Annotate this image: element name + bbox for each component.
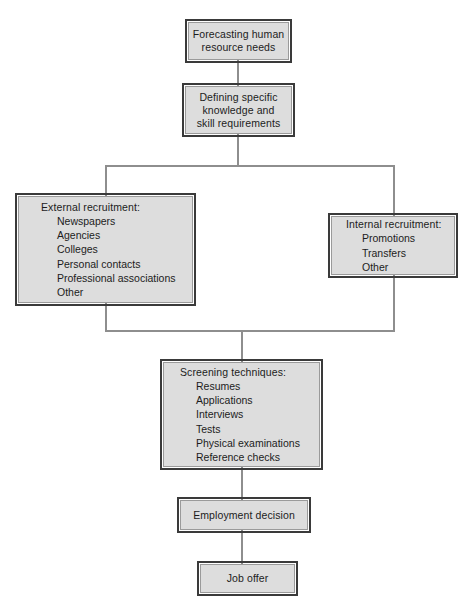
connector-split-to-external xyxy=(105,165,107,197)
connector-merge-to-screening xyxy=(241,330,243,363)
screening-techniques-list: Resumes Applications Interviews Tests Ph… xyxy=(180,379,300,464)
node-internal-recruitment[interactable]: Internal recruitment: Promotions Transfe… xyxy=(331,216,455,275)
node-label: Employment decision xyxy=(193,509,295,522)
list-item: Personal contacts xyxy=(57,257,175,271)
node-label: Screening techniques: xyxy=(180,365,286,379)
connector-split-bus xyxy=(105,165,395,167)
list-item: Tests xyxy=(196,422,300,436)
external-recruitment-list: Newspapers Agencies Colleges Personal co… xyxy=(41,214,175,299)
node-defining-requirements[interactable]: Defining specific knowledge and skill re… xyxy=(185,86,292,134)
node-label: Forecasting human resource needs xyxy=(193,28,285,54)
node-external-recruitment[interactable]: External recruitment: Newspapers Agencie… xyxy=(18,196,193,303)
list-item: Other xyxy=(362,260,415,274)
node-forecasting-human-resource-needs[interactable]: Forecasting human resource needs xyxy=(188,22,289,60)
node-label: External recruitment: xyxy=(41,200,140,214)
connector-merge-bus xyxy=(105,330,395,332)
list-item: Reference checks xyxy=(196,450,300,464)
connector-external-down xyxy=(105,303,107,332)
connector-employment-to-joboffer xyxy=(241,530,243,564)
list-item: Newspapers xyxy=(57,214,175,228)
node-label: Defining specific knowledge and skill re… xyxy=(197,91,281,130)
list-item: Interviews xyxy=(196,407,300,421)
internal-recruitment-list: Promotions Transfers Other xyxy=(346,231,415,274)
connector-defining-down xyxy=(237,134,239,166)
connector-screening-to-employment xyxy=(241,467,243,501)
node-screening-techniques[interactable]: Screening techniques: Resumes Applicatio… xyxy=(163,362,320,467)
list-item: Applications xyxy=(196,393,300,407)
list-item: Agencies xyxy=(57,228,175,242)
list-item: Transfers xyxy=(362,246,415,260)
list-item: Promotions xyxy=(362,231,415,245)
list-item: Resumes xyxy=(196,379,300,393)
list-item: Physical examinations xyxy=(196,436,300,450)
connector-forecasting-to-defining xyxy=(237,60,239,86)
flowchart-canvas: Forecasting human resource needs Definin… xyxy=(0,0,472,604)
node-label: Job offer xyxy=(227,572,269,585)
list-item: Professional associations xyxy=(57,271,175,285)
list-item: Other xyxy=(57,285,175,299)
connector-split-to-internal xyxy=(393,165,395,217)
list-item: Colleges xyxy=(57,242,175,256)
node-employment-decision[interactable]: Employment decision xyxy=(180,500,308,530)
connector-internal-down xyxy=(393,275,395,332)
node-label: Internal recruitment: xyxy=(346,217,441,231)
node-job-offer[interactable]: Job offer xyxy=(200,564,295,593)
